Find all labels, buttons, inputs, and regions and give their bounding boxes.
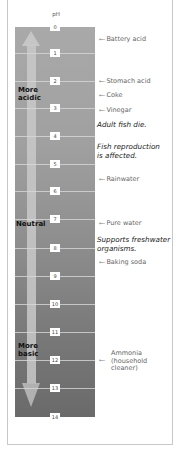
region-label-neutral: Neutral xyxy=(16,220,46,228)
substance-marker: ←- -Pure water xyxy=(99,219,141,227)
ph-tick-4: 4 xyxy=(50,132,60,140)
region-label-more-acidic: More acidic xyxy=(18,86,58,102)
pointer-arrow-icon: ←- - xyxy=(99,175,104,183)
substance-marker-ammonia: Ammonia (household cleaner) xyxy=(111,350,147,373)
substance-label: Vinegar xyxy=(106,106,131,114)
substance-marker: ←- -Baking soda xyxy=(99,258,146,266)
note-line: organisms. xyxy=(97,244,175,253)
pointer-arrow-icon: ←- - xyxy=(99,35,104,43)
note-fish-reproduction: Fish reproduction is affected. xyxy=(97,142,175,160)
ph-tick-1: 1 xyxy=(50,49,60,57)
region-label-more-basic: More basic xyxy=(18,342,52,358)
substance-marker: ←- -Stomach acid xyxy=(99,77,151,85)
ph-tick-14: 14 xyxy=(50,413,60,421)
note-line: Supports freshwater xyxy=(97,235,175,244)
arrow-up-icon xyxy=(22,31,40,46)
substance-label: Baking soda xyxy=(106,258,146,266)
substance-label: Rainwater xyxy=(106,175,139,183)
ph-tick-0: 0 xyxy=(50,23,60,31)
substance-marker: ←- -Battery acid xyxy=(99,35,146,43)
substance-label-line: cleaner) xyxy=(111,365,147,373)
note-line: is affected. xyxy=(97,151,175,160)
substance-label: Coke xyxy=(106,91,122,99)
substance-marker: ←- -Rainwater xyxy=(99,175,139,183)
pointer-arrow-icon: ←- - xyxy=(99,106,104,114)
ph-tick-9: 9 xyxy=(50,272,60,280)
pointer-arrow-icon: ←- - xyxy=(99,219,104,227)
pointer-arrow-icon: ←- - xyxy=(99,258,104,266)
ph-tick-13: 13 xyxy=(50,384,60,392)
ph-tick-6: 6 xyxy=(50,187,60,195)
substance-marker: ←- -Vinegar xyxy=(99,106,131,114)
ph-tick-3: 3 xyxy=(50,104,60,112)
ph-tick-8: 8 xyxy=(50,244,60,252)
substance-marker: ←- - xyxy=(99,356,106,364)
pointer-arrow-icon: ←- - xyxy=(99,356,104,364)
substance-label: Stomach acid xyxy=(106,77,150,85)
note-supports-freshwater: Supports freshwater organisms. xyxy=(97,235,175,253)
substance-label: Battery acid xyxy=(106,35,146,43)
ph-tick-7: 7 xyxy=(50,215,60,223)
substance-label: Pure water xyxy=(106,219,141,227)
ph-tick-2: 2 xyxy=(50,77,60,85)
pointer-arrow-icon: ←- - xyxy=(99,77,104,85)
arrow-down-icon xyxy=(22,383,40,407)
note-line: Fish reproduction xyxy=(97,142,175,151)
ph-tick-10: 10 xyxy=(50,300,60,308)
ph-tick-11: 11 xyxy=(50,328,60,336)
ph-axis-label: pH xyxy=(46,11,66,17)
note-adult-fish-die: Adult fish die. xyxy=(97,120,175,129)
ph-tick-5: 5 xyxy=(50,160,60,168)
pointer-arrow-icon: ←- - xyxy=(99,91,104,99)
substance-marker: ←- -Coke xyxy=(99,91,122,99)
